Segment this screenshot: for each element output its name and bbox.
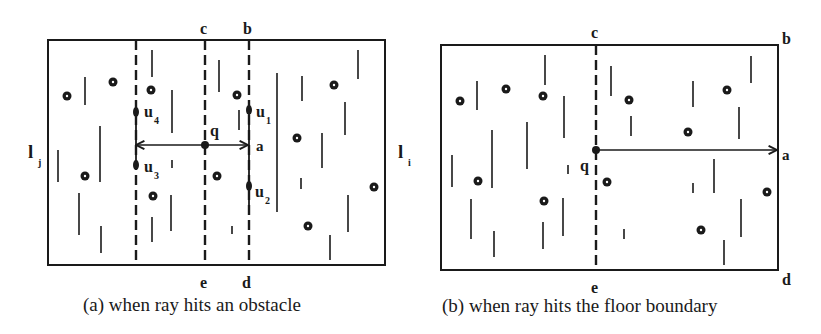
label-u2-sub: 2 [265,195,270,206]
obstacle-segments-a [58,50,358,260]
caption-b: (b) when ray hits the floor boundary [442,295,718,317]
label-a-a: a [256,138,264,154]
label-e-a: e [200,274,207,291]
label-u3-sub: 3 [154,170,159,181]
label-u1-sub: 1 [266,115,271,126]
label-b-a: b [243,20,252,37]
label-u4: u [144,103,153,120]
label-li: l [398,141,403,162]
label-q-a: q [210,122,219,140]
intersection-point-u1 [246,105,252,115]
label-a-b: a [782,147,790,163]
panel-a-obstacle: l j l i c b e d q a u 4 u 3 u 1 u 2 (a) … [28,20,411,316]
label-d-a: d [242,274,251,291]
caption-a: (a) when ray hits an obstacle [83,294,301,316]
label-c-b: c [591,24,598,41]
label-d-b: d [782,271,791,288]
query-point-q-b [592,146,600,154]
intersection-point-u3 [133,160,139,170]
label-q-b: q [580,157,589,175]
label-u1: u [256,103,265,120]
label-e-b: e [591,279,598,296]
label-u2: u [255,183,264,200]
panel-b-boundary: c e b d q a (b) when ray hits the floor … [441,24,791,317]
obstacle-points-a [63,78,379,231]
obstacle-points-b [456,85,772,235]
label-u3: u [144,158,153,175]
query-point-q-a [201,141,209,149]
label-lj: l [28,141,33,162]
ray-casting-diagram: l j l i c b e d q a u 4 u 3 u 1 u 2 (a) … [0,0,821,334]
label-c-a: c [200,20,207,37]
label-b-b: b [782,30,791,47]
label-li-sub: i [408,157,411,168]
floor-boundary-a [48,40,385,265]
label-lj-sub: j [37,157,41,168]
obstacle-segments-b [452,55,751,265]
intersection-points-a [133,105,252,206]
intersection-point-u2 [246,181,252,191]
label-u4-sub: 4 [154,115,159,126]
intersection-point-u4 [133,107,139,117]
